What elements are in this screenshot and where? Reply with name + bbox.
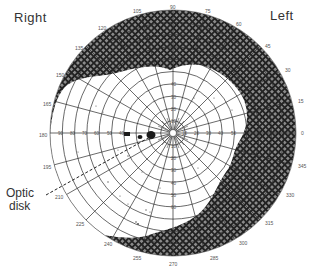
svg-text:210: 210 [55, 194, 64, 200]
radial-scale-left: 90 80 70 60 50 40 [58, 131, 125, 136]
svg-text:20: 20 [194, 131, 200, 136]
blind-spot [124, 131, 156, 139]
svg-text:60: 60 [94, 131, 100, 136]
svg-text:10: 10 [171, 144, 177, 149]
svg-text:70: 70 [82, 131, 88, 136]
svg-text:0: 0 [301, 130, 304, 136]
svg-text:50: 50 [171, 193, 177, 198]
svg-text:40: 40 [119, 131, 125, 136]
svg-text:255: 255 [133, 255, 142, 261]
svg-text:40: 40 [171, 181, 177, 186]
svg-text:105: 105 [133, 8, 142, 14]
optic-disk-spot-mid [138, 135, 143, 139]
radial-scale-vertical: 10 20 30 40 10 20 30 40 50 60 [171, 82, 177, 210]
svg-text:50: 50 [107, 131, 113, 136]
optic-disk-pointer [46, 137, 150, 195]
svg-text:75: 75 [205, 8, 211, 14]
perimetry-chart: 90 80 70 60 50 40 10 20 30 40 50 10 20 3… [0, 0, 317, 271]
svg-text:285: 285 [210, 255, 219, 261]
svg-text:30: 30 [285, 67, 291, 73]
svg-text:195: 195 [43, 164, 52, 170]
svg-text:45: 45 [265, 43, 271, 49]
svg-text:60: 60 [171, 205, 177, 210]
svg-text:10: 10 [182, 131, 188, 136]
svg-text:300: 300 [239, 240, 248, 246]
svg-text:60: 60 [236, 21, 242, 27]
svg-text:90: 90 [58, 131, 64, 136]
optic-disk-spot-small [124, 132, 130, 136]
svg-text:30: 30 [171, 168, 177, 173]
svg-text:50: 50 [231, 131, 237, 136]
svg-text:345: 345 [298, 163, 307, 169]
svg-text:40: 40 [218, 131, 224, 136]
radial-scale-right: 10 20 30 40 50 [182, 131, 237, 136]
svg-text:40: 40 [171, 82, 177, 87]
svg-text:30: 30 [206, 131, 212, 136]
svg-text:15: 15 [298, 98, 304, 104]
svg-text:20: 20 [171, 107, 177, 112]
svg-text:20: 20 [171, 156, 177, 161]
svg-text:90: 90 [170, 4, 176, 10]
svg-text:315: 315 [265, 220, 274, 226]
svg-text:225: 225 [76, 221, 85, 227]
svg-text:330: 330 [286, 192, 295, 198]
svg-text:10: 10 [171, 119, 177, 124]
svg-text:135: 135 [75, 45, 84, 51]
svg-text:240: 240 [104, 241, 113, 247]
svg-text:270: 270 [169, 261, 178, 267]
svg-text:150: 150 [56, 72, 65, 78]
svg-text:30: 30 [171, 95, 177, 100]
svg-text:165: 165 [43, 101, 52, 107]
svg-text:80: 80 [70, 131, 76, 136]
svg-text:120: 120 [98, 25, 107, 31]
svg-text:180: 180 [39, 132, 48, 138]
